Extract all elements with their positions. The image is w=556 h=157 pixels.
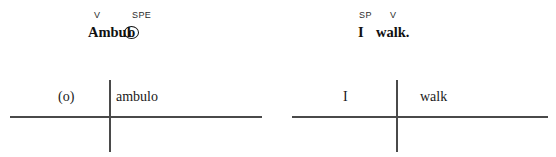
cross-horizontal-line [10, 116, 262, 118]
cross-cell-right-latin: ambulo [116, 89, 158, 105]
gloss-word-walk: walk. [376, 24, 409, 41]
panel-latin: V SPE Ambul o (o) ambulo [0, 0, 278, 157]
figure-canvas: V SPE Ambul o (o) ambulo SP V [0, 0, 556, 157]
cross-cell-left-latin: (o) [58, 89, 74, 105]
gloss-tag-sp: SP [359, 10, 372, 20]
cross-cell-right-english: walk [420, 89, 447, 105]
gloss-tag-v: V [94, 10, 100, 20]
cross-vertical-line [396, 80, 398, 152]
circled-morpheme-o: o [127, 24, 136, 41]
morpheme-suffix-o: o [128, 24, 135, 40]
cross-horizontal-line [292, 116, 548, 118]
cross-cell-left-english: I [343, 89, 348, 105]
cross-vertical-line [109, 80, 111, 152]
morpheme-stem-ambul: Ambul [88, 24, 131, 41]
gloss-word-i: I [358, 24, 364, 41]
morpheme-suffix-o-wrapper: o [127, 24, 136, 41]
gloss-tag-v: V [390, 10, 396, 20]
panel-english: SP V I walk. I walk [278, 0, 556, 157]
gloss-tag-spe: SPE [132, 10, 151, 20]
